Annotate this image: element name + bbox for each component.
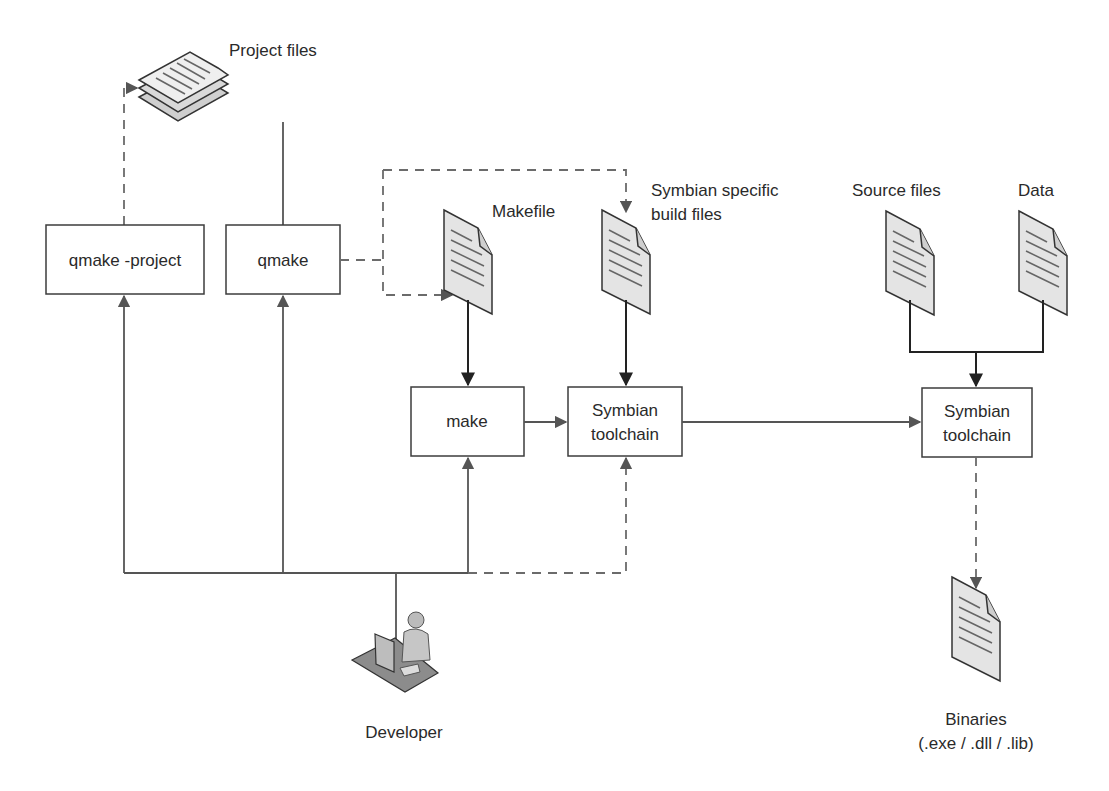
- edge-qmake-to-makefile: [383, 170, 452, 295]
- source-files-icon: [886, 211, 934, 315]
- qmake-node: qmake: [226, 225, 340, 294]
- symbian-build-files-icon: [602, 210, 650, 314]
- symbian-toolchain-2-node: Symbian toolchain: [922, 388, 1032, 457]
- binaries-icon: [952, 577, 1000, 681]
- symbian-toolchain-2-label-2: toolchain: [943, 426, 1011, 445]
- qmake-label: qmake: [257, 251, 308, 270]
- data-label: Data: [1018, 181, 1054, 200]
- build-flow-diagram: Project files qmake -project qmake Makef…: [0, 0, 1109, 791]
- symbian-toolchain-label-1: Symbian: [592, 401, 658, 420]
- developer-icon: [352, 612, 438, 692]
- binaries-label-2: (.exe / .dll / .lib): [918, 734, 1033, 753]
- edge-developer-to-toolchain: [468, 458, 626, 573]
- edge-qmakeproject-to-projectfiles: [124, 88, 137, 225]
- make-node: make: [411, 387, 524, 456]
- source-files-label: Source files: [852, 181, 941, 200]
- project-files-icon: [139, 52, 228, 121]
- make-label: make: [446, 412, 488, 431]
- symbian-toolchain-label-2: toolchain: [591, 425, 659, 444]
- makefile-icon: [444, 210, 492, 314]
- symbian-build-files-label-1: Symbian specific: [651, 181, 779, 200]
- data-file-icon: [1019, 211, 1067, 315]
- symbian-toolchain-2-label-1: Symbian: [944, 402, 1010, 421]
- qmake-project-label: qmake -project: [69, 251, 182, 270]
- binaries-label-1: Binaries: [945, 710, 1006, 729]
- qmake-project-node: qmake -project: [46, 225, 204, 294]
- project-files-label: Project files: [229, 41, 317, 60]
- developer-label: Developer: [365, 723, 443, 742]
- symbian-build-files-label-2: build files: [651, 205, 722, 224]
- makefile-label: Makefile: [492, 202, 555, 221]
- symbian-toolchain-node: Symbian toolchain: [568, 387, 682, 456]
